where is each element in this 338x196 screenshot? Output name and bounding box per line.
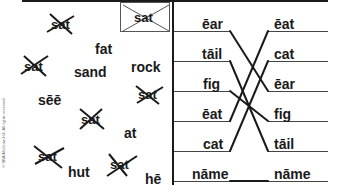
matching-lines [0,0,338,196]
